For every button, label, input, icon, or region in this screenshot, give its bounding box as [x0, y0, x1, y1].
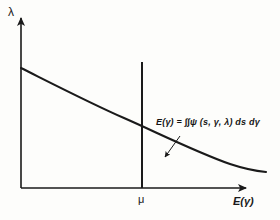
equation-annotation: E(γ) = ∫∫ψ (s, γ, λ) ds dγ	[156, 118, 260, 127]
y-axis-label: λ	[8, 6, 14, 18]
x-axis-label: E(γ)	[233, 196, 254, 207]
figure-container: λ E(γ) μ E(γ) = ∫∫ψ (s, γ, λ) ds dγ	[0, 0, 280, 220]
mu-tick-label: μ	[138, 194, 144, 205]
plot-canvas	[0, 0, 280, 220]
